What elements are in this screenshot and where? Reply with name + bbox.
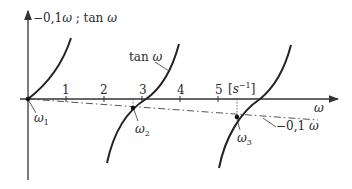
omega2-point [131,106,136,111]
tan-curve-label: tan ω [129,51,162,63]
tan-branch-3 [219,45,291,168]
omega1-label: ω1 [34,112,49,127]
omega3-label: ω3 [237,132,252,147]
x-axis-label: ω [314,102,324,114]
unit-label: [s−1] [228,82,255,95]
tick-label-3: 3 [139,84,147,96]
y-axis-label: −0,1ω ; tan ω [33,12,117,24]
neg-0-1-omega-line [28,99,318,120]
omega2-leader [134,110,138,121]
tick-label-2: 2 [100,84,108,96]
omega1-point [26,97,31,102]
tick-label-4: 4 [177,84,185,96]
omega3-point [235,115,240,120]
line-label: −0,1 ω [276,120,319,132]
tick-label-1: 1 [62,84,70,96]
tick-label-5: 5 [215,84,223,96]
line-label-leader [263,118,276,127]
omega2-label: ω2 [135,123,150,138]
tan-omega-diagram [0,0,352,189]
